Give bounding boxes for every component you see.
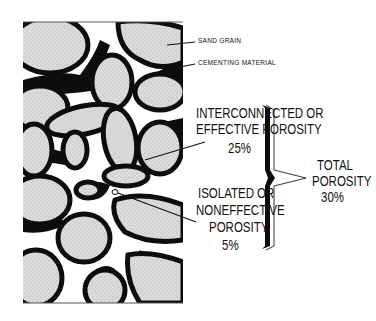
effective-line1: INTERCONNECTED OR [196,106,324,121]
sand-grain-label: SAND GRAIN [198,37,241,45]
total-value: 30% [321,190,344,205]
total-line2: POROSITY [312,174,371,189]
effective-value: 25% [228,141,251,156]
isolated-line1: ISOLATED OR [198,186,274,201]
total-line1: TOTAL [317,158,353,173]
isolated-pore [112,190,118,195]
cementing-material-label: CEMENTING MATERIAL [198,59,276,67]
isolated-value: 5% [222,238,239,253]
effective-line2: EFFECTIVE POROSITY [196,122,322,137]
porosity-diagram: SAND GRAIN CEMENTING MATERIAL INTERCONNE… [0,0,376,321]
isolated-line3: POROSITY [209,220,268,235]
isolated-line2: NONEFFECTIVE [196,203,285,218]
